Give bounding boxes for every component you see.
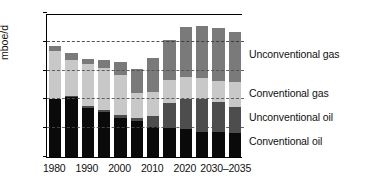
bar-segment-conventional-oil	[229, 133, 241, 157]
gridline-5	[47, 127, 244, 128]
bar-segment-conventional-oil	[82, 108, 94, 157]
x-tick-label-2030-2035: 2030–2035	[186, 162, 266, 174]
bar-segment-unconventional-oil	[229, 107, 241, 132]
bar-segment-conventional-oil	[114, 118, 126, 157]
bar-2005	[131, 69, 143, 157]
bar-segment-conventional-oil	[212, 132, 224, 157]
legend-label-unconventional-oil: Unconventional oil	[249, 111, 333, 123]
bar-segment-conventional-gas	[65, 60, 77, 96]
plot-inner	[47, 15, 242, 157]
legend-label-unconventional-gas: Unconventional gas	[249, 48, 339, 60]
bar-segment-conventional-gas	[98, 68, 110, 110]
bar-segment-conventional-gas	[196, 78, 208, 99]
bar-1990	[82, 59, 94, 157]
bar-segment-unconventional-gas	[163, 40, 175, 80]
gridline-15	[47, 70, 244, 71]
bar-segment-unconventional-oil	[180, 99, 192, 130]
bar-2025	[196, 26, 208, 157]
bars-layer	[47, 15, 242, 157]
bar-segment-conventional-oil	[180, 129, 192, 157]
legend-label-conventional-oil: Conventional oil	[249, 135, 322, 147]
bar-2035	[229, 32, 241, 157]
bar-segment-conventional-oil	[98, 112, 110, 158]
bar-segment-unconventional-gas	[65, 53, 77, 60]
bar-segment-conventional-oil	[163, 128, 175, 157]
bar-1995	[98, 60, 110, 157]
bar-segment-unconventional-gas	[229, 32, 241, 82]
bar-segment-conventional-gas	[180, 77, 192, 99]
bar-segment-conventional-gas	[147, 92, 159, 116]
gridline-10	[47, 98, 244, 99]
bar-segment-unconventional-gas	[131, 69, 143, 92]
legend-label-conventional-gas: Conventional gas	[249, 87, 329, 99]
gridline-20	[47, 41, 244, 42]
bar-segment-conventional-oil	[147, 127, 159, 157]
bar-segment-unconventional-gas	[98, 60, 110, 68]
y-tick-mark-5	[43, 127, 47, 128]
bar-segment-unconventional-oil	[147, 116, 159, 127]
bar-segment-unconventional-gas	[147, 58, 159, 92]
bar-segment-conventional-gas	[114, 75, 126, 115]
y-tick-mark-20	[43, 41, 47, 42]
y-axis-title: mboe/d	[0, 25, 10, 60]
bar-segment-conventional-oil	[196, 132, 208, 157]
plot-area	[46, 14, 242, 158]
y-tick-mark-15	[43, 70, 47, 71]
bar-2000	[114, 62, 126, 157]
bar-segment-conventional-gas	[131, 93, 143, 118]
y-tick-mark-10	[43, 98, 47, 99]
bar-segment-unconventional-gas	[212, 28, 224, 81]
stacked-bar-chart: mboe/d 0510152025 1980199020002010202020…	[0, 0, 385, 188]
bar-2030	[212, 28, 224, 157]
y-tick-mark-0	[43, 156, 47, 157]
bar-segment-unconventional-gas	[114, 62, 126, 75]
bar-segment-conventional-gas	[229, 82, 241, 107]
bar-2020	[180, 27, 192, 157]
bar-1980	[49, 46, 61, 157]
bar-segment-conventional-oil	[49, 99, 61, 157]
y-tick-mark-25	[43, 12, 47, 13]
bar-segment-unconventional-oil	[163, 103, 175, 128]
bar-1985	[65, 53, 77, 157]
bar-segment-conventional-gas	[163, 80, 175, 104]
bar-segment-conventional-oil	[131, 121, 143, 157]
bar-segment-conventional-gas	[49, 51, 61, 99]
bar-2010	[147, 58, 159, 157]
